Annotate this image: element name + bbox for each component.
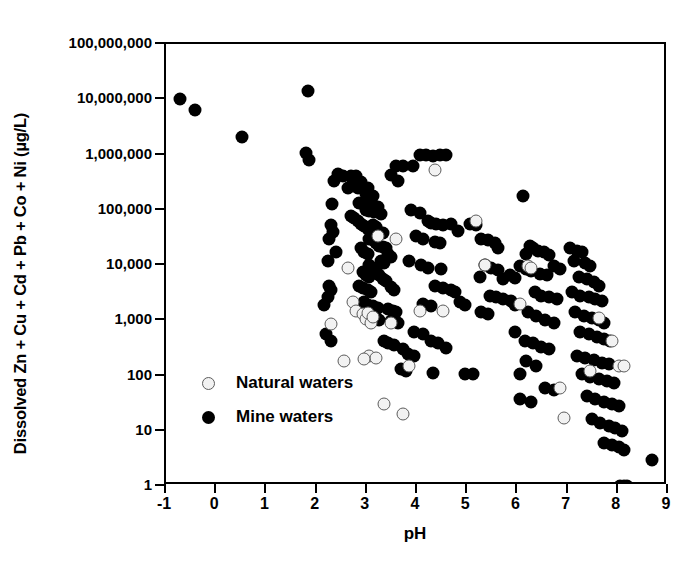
x-axis-ticks: -10123456789	[164, 484, 666, 518]
data-point	[584, 260, 597, 273]
y-axis-tick	[155, 42, 164, 44]
data-point	[325, 198, 338, 211]
data-point	[520, 247, 533, 260]
data-point	[384, 316, 397, 329]
x-axis-tick	[666, 484, 668, 493]
x-axis-tick-label: 9	[662, 495, 671, 513]
data-point	[396, 408, 409, 421]
data-point	[413, 304, 426, 317]
x-axis-tick-label: 7	[561, 495, 570, 513]
data-point	[321, 254, 334, 267]
data-point	[550, 293, 563, 306]
data-point	[371, 230, 384, 243]
data-point	[366, 310, 379, 323]
legend-item: Natural waters	[202, 366, 353, 400]
y-axis-tick-label: 10	[135, 420, 152, 437]
x-axis-tick	[465, 484, 467, 493]
data-point	[612, 400, 625, 413]
data-point	[391, 175, 404, 188]
scatter-plot-figure: Dissolved Zn + Cu + Cd + Pb + Co + Ni (µ…	[0, 0, 696, 567]
data-point	[323, 232, 336, 245]
y-axis-tick	[155, 374, 164, 376]
data-point	[508, 325, 521, 338]
data-point	[324, 335, 337, 348]
data-point	[584, 365, 597, 378]
x-axis-tick	[566, 484, 568, 493]
legend-item-label: Natural waters	[236, 373, 353, 393]
data-point	[435, 262, 448, 275]
x-axis-tick	[315, 484, 317, 493]
data-point	[513, 368, 526, 381]
data-point	[482, 307, 495, 320]
x-axis-tick	[214, 484, 216, 493]
x-axis-tick	[415, 484, 417, 493]
data-point	[470, 215, 483, 228]
data-point	[554, 381, 567, 394]
data-point	[645, 453, 658, 466]
legend-item-label: Mine waters	[236, 407, 333, 427]
data-point	[592, 311, 605, 324]
data-point	[530, 359, 543, 372]
data-point	[525, 261, 538, 274]
y-axis-tick	[155, 484, 164, 486]
data-point	[605, 334, 618, 347]
y-axis-tick	[155, 97, 164, 99]
data-point	[473, 271, 486, 284]
data-point	[617, 443, 630, 456]
legend-item: Mine waters	[202, 400, 353, 434]
data-point	[437, 304, 450, 317]
data-point	[458, 298, 471, 311]
data-point	[236, 130, 249, 143]
data-point	[492, 242, 505, 255]
x-axis-tick-label: -1	[157, 495, 171, 513]
y-axis-tick-labels: 1101001,00010,000100,0001,000,00010,000,…	[0, 42, 152, 484]
y-axis-tick	[155, 208, 164, 210]
data-point	[389, 232, 402, 245]
x-axis-title: pH	[164, 524, 666, 544]
data-point	[440, 341, 453, 354]
data-point	[403, 359, 416, 372]
x-axis-tick-label: 5	[461, 495, 470, 513]
open-circle-icon	[202, 377, 215, 390]
data-point	[428, 164, 441, 177]
data-point	[508, 272, 521, 285]
data-point	[595, 295, 608, 308]
data-point	[557, 412, 570, 425]
data-point	[440, 148, 453, 161]
data-point	[517, 189, 530, 202]
data-point	[592, 279, 605, 292]
y-axis-tick-label: 100	[127, 365, 152, 382]
y-axis-tick-label: 1	[144, 476, 152, 493]
data-point	[542, 343, 555, 356]
data-point	[341, 261, 354, 274]
y-axis-tick-label: 10,000,000	[77, 89, 152, 106]
data-point	[422, 261, 435, 274]
data-point	[615, 424, 628, 437]
data-point	[388, 284, 401, 297]
x-axis-tick-label: 1	[260, 495, 269, 513]
data-point	[607, 377, 620, 390]
y-axis-tick-label: 1,000	[114, 310, 152, 327]
y-axis-tick-label: 100,000,000	[69, 34, 152, 51]
data-point	[324, 318, 337, 331]
y-axis-tick	[155, 429, 164, 431]
data-point	[318, 298, 331, 311]
data-point	[374, 207, 387, 220]
x-axis-tick	[515, 484, 517, 493]
data-point	[358, 352, 371, 365]
data-point	[369, 351, 382, 364]
data-point	[303, 154, 316, 167]
data-point	[617, 359, 630, 372]
x-axis-tick-label: 0	[210, 495, 219, 513]
x-axis-tick	[164, 484, 166, 493]
filled-circle-icon	[202, 411, 215, 424]
data-point	[525, 396, 538, 409]
data-point	[189, 103, 202, 116]
x-axis-tick-label: 6	[511, 495, 520, 513]
y-axis-tick	[155, 153, 164, 155]
data-point	[406, 160, 419, 173]
x-axis-tick	[616, 484, 618, 493]
y-axis-tick-label: 1,000,000	[85, 144, 152, 161]
data-point	[328, 175, 341, 188]
x-axis-tick	[264, 484, 266, 493]
